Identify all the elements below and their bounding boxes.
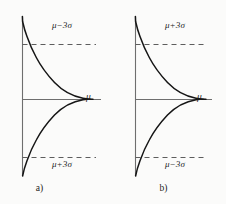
lower-sigma-label-a: μ+3σ [52,160,72,169]
lower-sigma-label-b: μ−3σ [165,160,185,169]
panel-b: μ+3σ μ μ−3σ b) [113,0,226,204]
mean-label-b: μ [197,93,202,103]
mean-label-a: μ [86,93,91,103]
panel-a-plot [0,0,113,204]
panel-caption-b: b) [107,184,220,194]
panel-b-plot [113,0,226,204]
density-curve-a [22,17,93,177]
upper-sigma-label-b: μ+3σ [165,21,185,30]
upper-sigma-label-a: μ−3σ [52,21,72,30]
density-curve-b [135,17,206,177]
panel-caption-a: a) [0,184,96,194]
normal-distribution-figure: μ−3σ μ μ+3σ a) μ+3σ μ μ−3σ b) [0,0,226,204]
panel-a: μ−3σ μ μ+3σ a) [0,0,113,204]
